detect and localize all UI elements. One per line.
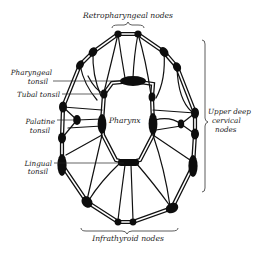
palatine-tonsil-label-2: tonsil — [30, 126, 50, 135]
palatine-tonsil-label-1: Palatine — [25, 117, 55, 126]
pharyngeal-tonsil-node — [120, 76, 146, 86]
upper-deep-cervical-brace — [202, 40, 208, 192]
pharyngeal-tonsil-label-1: Pharyngeal — [10, 68, 52, 77]
retropharyngeal-nodes-label: Retropharyngeal nodes — [82, 11, 173, 20]
upper-deep-cervical-label-2: cervical — [212, 116, 241, 125]
retropharyngeal-brace — [112, 22, 144, 28]
pharynx-wall-node-left — [98, 114, 107, 134]
lingual-tonsil-node — [118, 159, 139, 166]
lymphatic-ring-diagram: Retropharyngeal nodes Pharyngeal tonsil … — [0, 0, 264, 253]
palatine-tonsil-node-right — [178, 120, 184, 129]
tubal-tonsil-label: Tubal tonsil — [17, 90, 60, 99]
lingual-tonsil-label-2: tonsil — [28, 167, 48, 176]
pharynx-wall-node-right — [149, 113, 158, 135]
pharyngeal-tonsil-label-2: tonsil — [28, 77, 48, 86]
upper-deep-cervical-label-3: nodes — [215, 125, 237, 134]
upper-deep-cervical-label-1: Upper deep — [208, 107, 251, 116]
tubal-tonsil-node-right — [149, 92, 156, 101]
palatine-tonsil-node-left — [73, 115, 81, 125]
pharynx-label: Pharynx — [108, 116, 141, 125]
infrathyroid-nodes-label: Infrathyroid nodes — [91, 234, 164, 243]
